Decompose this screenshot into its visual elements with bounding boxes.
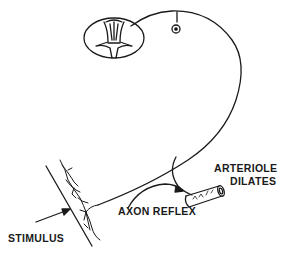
label-stimulus: STIMULUS [8, 232, 64, 244]
spinal-cord-cross-section [84, 18, 144, 58]
label-arteriole: ARTERIOLE [214, 162, 277, 174]
arteriole [185, 185, 225, 207]
label-dilates: DILATES [230, 175, 276, 187]
stimulus-arrow [36, 209, 70, 222]
label-axon-reflex: AXON REFLEX [118, 205, 196, 217]
ganglion-cell-body [172, 12, 180, 33]
